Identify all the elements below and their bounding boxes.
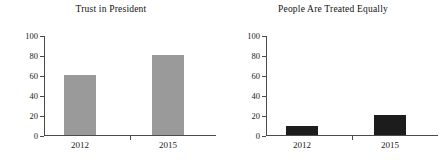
y-tick-20 bbox=[262, 116, 266, 117]
y-tick-100 bbox=[262, 36, 266, 37]
plot-area: 100 80 60 40 20 0 2012 2015 bbox=[266, 36, 438, 136]
y-tick-0 bbox=[262, 136, 266, 137]
y-tick-label-60: 60 bbox=[252, 71, 261, 81]
y-tick-20 bbox=[40, 116, 44, 117]
y-tick-label-0: 0 bbox=[256, 131, 260, 141]
y-tick-60 bbox=[40, 76, 44, 77]
y-tick-40 bbox=[262, 96, 266, 97]
y-axis-line bbox=[44, 36, 45, 136]
y-tick-label-20: 20 bbox=[30, 111, 39, 121]
x-tick-label-2015: 2015 bbox=[381, 140, 399, 150]
y-tick-100 bbox=[40, 36, 44, 37]
y-tick-label-80: 80 bbox=[30, 51, 39, 61]
y-tick-label-80: 80 bbox=[252, 51, 261, 61]
x-tick-mid bbox=[352, 136, 353, 140]
chart-title: People Are Treated Equally bbox=[222, 4, 444, 14]
y-tick-80 bbox=[40, 56, 44, 57]
bar-2015 bbox=[374, 115, 406, 135]
y-tick-40 bbox=[40, 96, 44, 97]
x-tick-mid bbox=[130, 136, 131, 140]
y-tick-label-60: 60 bbox=[30, 71, 39, 81]
y-tick-label-20: 20 bbox=[252, 111, 261, 121]
y-tick-label-100: 100 bbox=[25, 31, 38, 41]
x-tick-label-2012: 2012 bbox=[293, 140, 311, 150]
chart-panel-people-are-treated-equally: People Are Treated Equally 100 80 60 40 … bbox=[222, 0, 444, 164]
x-tick-label-2012: 2012 bbox=[71, 140, 89, 150]
bar-2015 bbox=[152, 55, 184, 135]
y-axis-line bbox=[266, 36, 267, 136]
plot-area: 100 80 60 40 20 0 2012 2015 bbox=[44, 36, 216, 136]
y-tick-0 bbox=[40, 136, 44, 137]
bar-2012 bbox=[64, 75, 96, 135]
bar-2012 bbox=[286, 126, 318, 135]
chart-panel-trust-in-president: Trust in President 100 80 60 40 20 0 201… bbox=[0, 0, 222, 164]
y-tick-label-100: 100 bbox=[247, 31, 260, 41]
x-tick-label-2015: 2015 bbox=[159, 140, 177, 150]
y-tick-60 bbox=[262, 76, 266, 77]
bar-chart-figure: Trust in President 100 80 60 40 20 0 201… bbox=[0, 0, 444, 164]
y-tick-label-40: 40 bbox=[30, 91, 39, 101]
chart-title: Trust in President bbox=[0, 4, 222, 14]
y-tick-label-40: 40 bbox=[252, 91, 261, 101]
y-tick-80 bbox=[262, 56, 266, 57]
y-tick-label-0: 0 bbox=[34, 131, 38, 141]
